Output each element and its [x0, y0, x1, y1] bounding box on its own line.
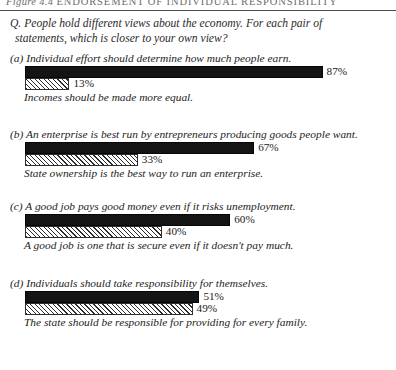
bar-solid	[25, 291, 199, 303]
bar-row: 67%	[10, 142, 390, 154]
bar-track: 67%	[25, 142, 367, 154]
panel-d-bottom-statement: The state should be responsible for prov…	[10, 316, 390, 329]
bar-value-label: 40%	[166, 225, 187, 238]
bar-value-label: 13%	[73, 77, 94, 90]
bar-solid	[25, 142, 254, 154]
bar-row: 33%	[10, 154, 390, 166]
panel-d-bar-group: 51%49%	[10, 291, 390, 315]
panel-b: (b) An enterprise is best run by entrepr…	[10, 128, 390, 180]
question-line-1: Q. People hold different views about the…	[10, 17, 322, 30]
bar-track: 60%	[25, 214, 367, 226]
bar-hatched	[25, 303, 193, 315]
panel-b-top-statement: (b) An enterprise is best run by entrepr…	[10, 128, 390, 141]
panel-a-bottom-statement: Incomes should be made more equal.	[10, 91, 390, 104]
bar-value-label: 49%	[197, 302, 218, 315]
question-line-2: statements, which is closer to your own …	[10, 32, 386, 47]
figure-number: Figure 4.4	[6, 0, 53, 7]
panel-c: (c) A good job pays good money even if i…	[10, 200, 390, 252]
bar-value-label: 60%	[234, 213, 255, 226]
bar-solid	[25, 214, 230, 226]
bar-track: 33%	[25, 154, 367, 166]
figure-title: ENDORSEMENT OF INDIVIDUAL RESPONSIBILITY	[56, 0, 337, 7]
bar-row: 49%	[10, 303, 390, 315]
header-divider	[0, 10, 396, 11]
bar-track: 49%	[25, 303, 367, 315]
panel-a: (a) Individual effort should determine h…	[10, 52, 390, 104]
bar-hatched	[25, 226, 162, 238]
bar-row: 60%	[10, 214, 390, 226]
bar-row: 13%	[10, 78, 390, 90]
question-prompt: Q. People hold different views about the…	[10, 17, 386, 46]
panel-c-bar-group: 60%40%	[10, 214, 390, 238]
bar-track: 13%	[25, 78, 367, 90]
panel-a-bar-group: 87%13%	[10, 66, 390, 90]
panel-d-top-statement: (d) Individuals should take responsibili…	[10, 277, 390, 290]
bar-hatched	[25, 154, 138, 166]
bar-value-label: 87%	[327, 65, 348, 78]
panel-c-bottom-statement: A good job is one that is secure even if…	[10, 239, 390, 252]
panel-d: (d) Individuals should take responsibili…	[10, 277, 390, 329]
bar-row: 40%	[10, 226, 390, 238]
panel-b-bar-group: 67%33%	[10, 142, 390, 166]
panel-b-bottom-statement: State ownership is the best way to run a…	[10, 167, 390, 180]
figure-caption: Figure 4.4 ENDORSEMENT OF INDIVIDUAL RES…	[6, 0, 390, 8]
panel-c-top-statement: (c) A good job pays good money even if i…	[10, 200, 390, 213]
panel-a-top-statement: (a) Individual effort should determine h…	[10, 52, 390, 65]
bar-track: 40%	[25, 226, 367, 238]
bar-row: 87%	[10, 66, 390, 78]
bar-value-label: 67%	[258, 141, 279, 154]
bar-solid	[25, 66, 323, 78]
bar-value-label: 33%	[142, 153, 163, 166]
bar-hatched	[25, 78, 69, 90]
